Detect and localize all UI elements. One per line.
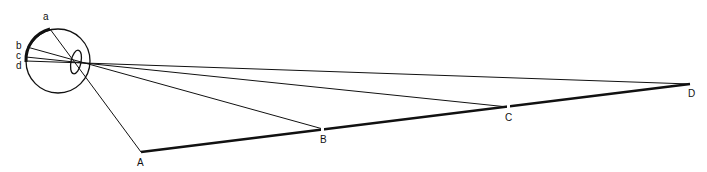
ray-d-D [26, 61, 690, 84]
ray-b-B [27, 47, 323, 129]
label-a: a [43, 11, 49, 22]
ray-c-C [26, 57, 508, 107]
ray-a-A [50, 29, 141, 152]
label-C: C [505, 112, 512, 123]
label-d: d [16, 60, 22, 71]
object-line [141, 84, 690, 152]
label-D: D [688, 88, 695, 99]
eye-projection-diagram: a b c d A B C D [0, 0, 707, 172]
label-B: B [320, 134, 327, 145]
label-A: A [137, 157, 144, 168]
point-marker-C [507, 105, 510, 109]
point-marker-B [321, 127, 324, 131]
